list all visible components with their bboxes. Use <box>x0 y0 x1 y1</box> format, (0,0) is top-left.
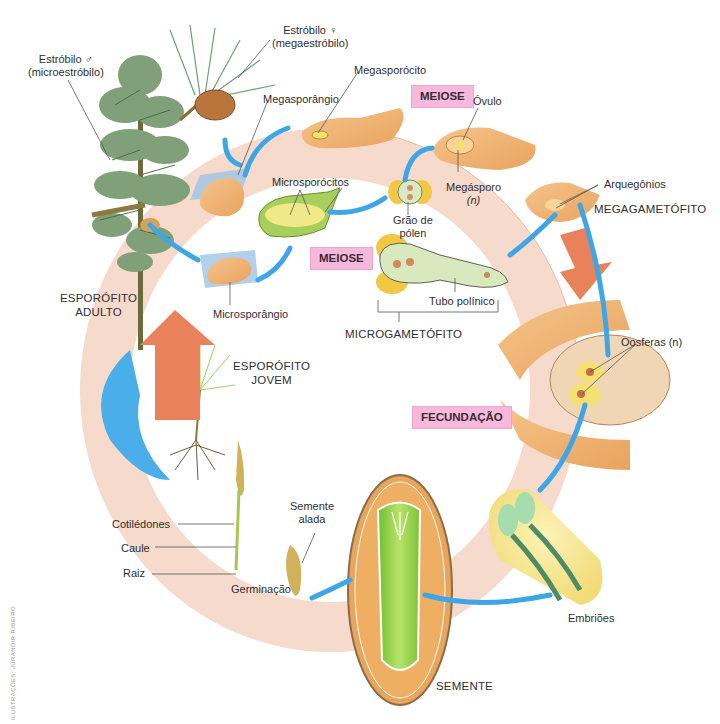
label-oospheres: Oosferas (n) <box>621 336 682 349</box>
embryos <box>489 489 603 605</box>
arrow-microsporangium-to-sporocytes <box>258 248 290 280</box>
label-megaspore: Megásporo (n) <box>446 181 501 207</box>
tag-fertilization: FECUNDAÇÃO <box>412 406 512 429</box>
arrow-seed-to-germination <box>312 580 350 598</box>
seed <box>348 475 452 705</box>
label-root: Raiz <box>123 567 145 580</box>
label-megagametophyte: MEGAGAMETÓFITO <box>594 202 706 216</box>
tag-meiosis-mid: MEIOSE <box>310 247 373 270</box>
label-seed: SEMENTE <box>436 679 493 693</box>
label-megasporangium: Megasporângio <box>263 93 339 106</box>
label-embryos: Embriões <box>568 612 614 625</box>
label-microgametophyte: MICROGAMETÓFITO <box>345 327 462 341</box>
cycle-arrow-up <box>140 310 215 420</box>
cycle-arrow-down <box>560 228 612 300</box>
arrow-sporocytes-to-pollen <box>330 198 385 212</box>
label-pollen-grain: Grão de pólen <box>393 214 433 240</box>
label-adult-sporophyte: ESPORÓFITO ADULTO <box>60 291 137 319</box>
pollen-grain <box>388 180 432 204</box>
label-young-sporophyte: ESPORÓFITO JOVEM <box>233 359 310 387</box>
label-cotyledons: Cotilédones <box>112 518 170 531</box>
label-ovule: Óvulo <box>473 95 502 108</box>
label-microsporangium: Microsporângio <box>213 308 288 321</box>
label-pollen-tube: Tubo polínico <box>429 295 495 308</box>
illustration-credit: ILUSTRAÇÕES: JURANDIR RIBEIRO <box>10 606 16 720</box>
tag-meiosis-top: MEIOSE <box>411 85 474 108</box>
microsporangium <box>200 250 258 288</box>
label-male-strobilus: Estróbilo ♂ (microestróbilo) <box>28 53 104 79</box>
label-archegonia: Arquegônios <box>604 178 666 191</box>
label-stem: Caule <box>121 542 150 555</box>
label-winged-seed: Semente alada <box>290 500 334 526</box>
female-cone <box>195 90 235 120</box>
label-megasporocyte: Megasporócito <box>354 64 426 77</box>
label-microsporocytes: Microsporócitos <box>272 176 349 189</box>
label-germination: Germinação <box>231 583 291 596</box>
label-female-strobilus: Estróbilo ♀ (megaestróbilo) <box>272 24 348 50</box>
